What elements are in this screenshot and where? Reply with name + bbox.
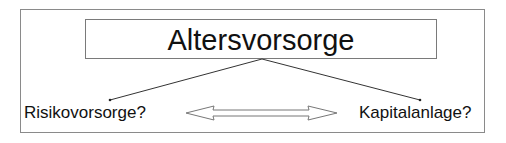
line-to-right-option [262, 59, 421, 101]
line-to-left-option [109, 59, 262, 101]
left-option-label: Risikovorsorge? [24, 104, 146, 121]
double-arrow-icon [186, 106, 337, 120]
right-option-label: Kapitalanlage? [359, 104, 471, 121]
